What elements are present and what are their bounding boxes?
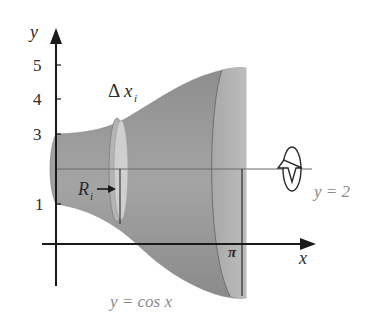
y-axis-label: y bbox=[28, 22, 38, 42]
delta-symbol: Δ bbox=[108, 80, 120, 101]
y-tick-label-5: 5 bbox=[33, 56, 42, 75]
y-axis-arrow-icon bbox=[50, 28, 62, 44]
y-tick-label-3: 3 bbox=[33, 125, 42, 144]
radius-subscript: i bbox=[90, 190, 93, 202]
y-tick-label-4: 4 bbox=[33, 90, 42, 109]
axis-of-rotation-label: y = 2 bbox=[312, 182, 351, 201]
x-axis-label: x bbox=[298, 248, 307, 268]
solid-of-revolution-diagram: y 5 4 3 1 Δ x i R i π x y = 2 y = cos x bbox=[0, 0, 381, 323]
delta-x-subscript: i bbox=[134, 92, 137, 104]
curve-label: y = cos x bbox=[108, 292, 172, 311]
disk-slice-front bbox=[114, 120, 128, 220]
x-tick-label-pi: π bbox=[228, 244, 237, 260]
delta-x-var: x bbox=[123, 80, 133, 101]
y-tick-label-1: 1 bbox=[35, 195, 44, 214]
radius-label: R bbox=[77, 179, 89, 199]
